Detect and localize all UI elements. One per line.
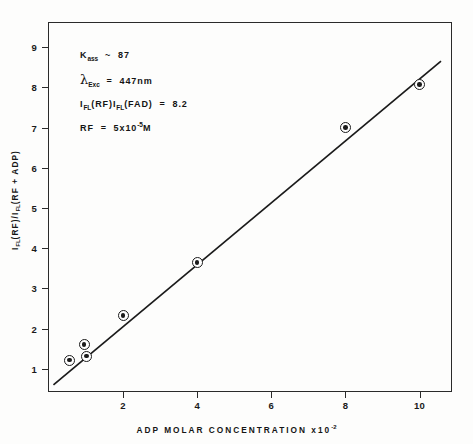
plot-frame: 123456789246810 [48, 22, 452, 392]
y-axis-tick [42, 128, 49, 129]
y-axis-tick [42, 87, 49, 88]
y-axis-tick [42, 329, 49, 330]
x-axis-tick-label: 8 [343, 400, 348, 411]
y-axis-numerator-symbol: I [10, 247, 20, 250]
data-point-marker [340, 122, 351, 133]
y-axis-denominator-subscript: FL [15, 204, 21, 211]
y-axis-numerator-subscript: FL [15, 239, 21, 246]
y-axis-tick [42, 208, 49, 209]
data-point-marker [79, 339, 90, 350]
y-axis-denominator-paren: (RF + ADP) [10, 150, 20, 204]
y-axis-tick-label: 4 [32, 243, 37, 254]
x-axis-tick-label: 6 [269, 400, 274, 411]
y-axis-tick-label: 9 [32, 42, 37, 53]
x-axis-tick [420, 391, 421, 398]
y-axis-tick-label: 3 [32, 283, 37, 294]
y-axis-slash-icon: / [10, 215, 20, 218]
y-axis-tick [42, 369, 49, 370]
x-axis-tick-label: 2 [120, 400, 125, 411]
y-axis-tick-label: 6 [32, 162, 37, 173]
plot-area: 123456789246810 [49, 23, 451, 391]
x-axis-title-exponent: -2 [331, 424, 336, 430]
y-axis-numerator-paren: (RF) [10, 218, 20, 239]
data-point-marker [118, 310, 129, 321]
y-axis-tick-label: 5 [32, 203, 37, 214]
y-axis-tick [42, 168, 49, 169]
x-axis-tick [197, 391, 198, 398]
figure-container: Kass ~ 87 λExc = 447nm IFL(RF)IFL(FAD) =… [0, 0, 473, 444]
data-point-marker [81, 351, 92, 362]
regression-line [49, 23, 451, 391]
y-axis-tick-label: 7 [32, 122, 37, 133]
x-axis-tick-label: 4 [194, 400, 199, 411]
data-point-marker [64, 355, 75, 366]
y-axis-tick [42, 288, 49, 289]
y-axis-denominator-symbol: I [10, 212, 20, 215]
y-axis-tick-label: 2 [32, 323, 37, 334]
x-axis-tick-label: 10 [414, 400, 425, 411]
y-axis-tick [42, 248, 49, 249]
x-axis-tick [345, 391, 346, 398]
x-axis-tick [123, 391, 124, 398]
y-axis-tick-label: 8 [32, 82, 37, 93]
x-axis-tick [271, 391, 272, 398]
y-axis-tick-label: 1 [32, 363, 37, 374]
x-axis-title-text: ADP MOLAR CONCENTRATION x10 [136, 425, 331, 435]
x-axis-title: ADP MOLAR CONCENTRATION x10-2 [0, 424, 473, 435]
data-point-marker [414, 79, 425, 90]
data-point-marker [192, 257, 203, 268]
y-axis-tick [42, 47, 49, 48]
y-axis-title: IFL(RF)/IFL(RF + ADP) [10, 150, 26, 250]
